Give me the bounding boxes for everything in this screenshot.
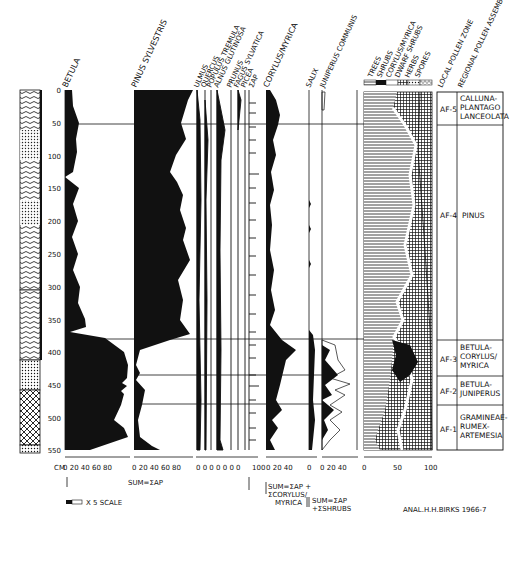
svg-text:550: 550 xyxy=(48,447,61,455)
summary-tick-100: 100 xyxy=(424,464,437,472)
header-local-zone: LOCAL POLLEN ZONE xyxy=(437,18,476,89)
svg-text:200: 200 xyxy=(48,218,61,226)
zone-column: AF-5 CALLUNA- PLANTAGO LANCEOLATA AF-4 P… xyxy=(437,92,510,450)
zone-code-af3: AF-3 xyxy=(440,355,457,364)
zone-name-af2-line2: JUNIPERUS xyxy=(459,389,500,398)
curve-pinus xyxy=(134,90,193,450)
summary-tick-0: 0 xyxy=(362,464,366,472)
zone-name-af5-line3: LANCEOLATA xyxy=(460,112,510,121)
curve-betula xyxy=(65,90,128,450)
depth-axis: 050100 150200250 300350400 450500550 CM xyxy=(48,87,65,472)
summary-diagram xyxy=(364,92,432,450)
credit-text: ANAL.H.H.BIRKS 1966-7 xyxy=(403,506,486,514)
sum-ap-label: SUM=ΣAP xyxy=(128,479,163,487)
svg-text:450: 450 xyxy=(48,382,61,390)
zone-code-af2: AF-2 xyxy=(440,387,457,396)
zone-code-af5: AF-5 xyxy=(440,105,457,114)
svg-text:0: 0 xyxy=(57,87,61,95)
header-juniperus: JUNIPERUS COMMUNIS xyxy=(318,13,359,90)
sum-corylus-line3: MYRICA xyxy=(275,499,302,507)
svg-text:350: 350 xyxy=(48,317,61,325)
svg-text:150: 150 xyxy=(48,185,61,193)
svg-text:500: 500 xyxy=(48,415,61,423)
lithology-column xyxy=(20,90,42,453)
zone-name-af3-line1: BETULA- xyxy=(460,343,492,352)
curve-corylus xyxy=(266,90,296,450)
svg-text:400: 400 xyxy=(48,349,61,357)
sum-corylus-line1: SUM=ΣAP + xyxy=(268,483,311,491)
corylus-ticks: 0 20 40 xyxy=(266,464,293,472)
zone-name-af1-line2: RUMEX- xyxy=(460,422,490,431)
zone-name-af3-line2: CORYLUS/ xyxy=(460,352,498,361)
juniperus-column xyxy=(322,90,357,450)
juniperus-ticks: 0 20 40 xyxy=(320,464,347,472)
header-regional-zone: REGIONAL POLLEN ASSEMBLAGE ZONE xyxy=(457,0,522,89)
salix-column xyxy=(309,90,315,450)
svg-text:100: 100 xyxy=(48,153,61,161)
zone-name-af3-line3: MYRICA xyxy=(460,361,490,370)
header-betula: BETULA xyxy=(61,56,83,89)
svg-text:300: 300 xyxy=(48,284,61,292)
zone-name-af1-line3: ARTEMESIA xyxy=(460,431,503,440)
svg-text:250: 250 xyxy=(48,251,61,259)
betula-ticks: 0 20 40 60 80 xyxy=(63,464,112,472)
sum-annotations: SUM=ΣAP SUM=ΣAP + ΣCORYLUS/ MYRICA SUM=Σ… xyxy=(67,477,486,514)
scale-note: X 5 SCALE xyxy=(86,499,122,507)
ap-ticks: 100 xyxy=(252,464,265,472)
salix-ticks: 0 xyxy=(307,464,311,472)
summary-legend-bar xyxy=(364,80,432,85)
zone-name-af1-line1: GRAMINEAE- xyxy=(460,413,508,422)
zone-name-af2-line1: BETULA- xyxy=(460,380,492,389)
sum-shrubs-line2: +ΣSHRUBS xyxy=(312,505,352,513)
header-corylus: CORYLUS/MYRICA xyxy=(262,21,300,89)
svg-text:50: 50 xyxy=(52,120,61,128)
zone-code-af4: AF-4 xyxy=(440,211,457,220)
taxa-headers: BETULA PINUS SYLVESTRIS ULMUS QUERCUS PO… xyxy=(61,0,522,90)
sum-shrubs-line1: SUM=ΣAP xyxy=(312,497,347,505)
header-pinus: PINUS SYLVESTRIS xyxy=(130,18,169,89)
summary-tick-50: 50 xyxy=(393,464,402,472)
bottom-tick-labels: 0 20 40 60 80 0 20 40 60 80 0 0 0 0 0 0 … xyxy=(63,464,437,472)
sum-ap-column xyxy=(249,90,259,450)
zone-name-af5-line2: PLANTAGO xyxy=(460,103,500,112)
sum-corylus-line2: ΣCORYLUS/ xyxy=(268,491,308,499)
zone-code-af1: AF-1 xyxy=(440,425,457,434)
minor-taxa-ticks: 0 0 0 0 0 0 0 xyxy=(196,464,241,472)
pinus-ticks: 0 20 40 60 80 xyxy=(132,464,181,472)
scale-legend: X 5 SCALE xyxy=(66,499,122,507)
zone-name-af4: PINUS xyxy=(462,211,485,220)
pollen-diagram: BETULA PINUS SYLVESTRIS ULMUS QUERCUS PO… xyxy=(0,0,522,576)
minor-tree-taxa xyxy=(197,90,245,450)
zone-name-af5-line1: CALLUNA- xyxy=(460,94,497,103)
